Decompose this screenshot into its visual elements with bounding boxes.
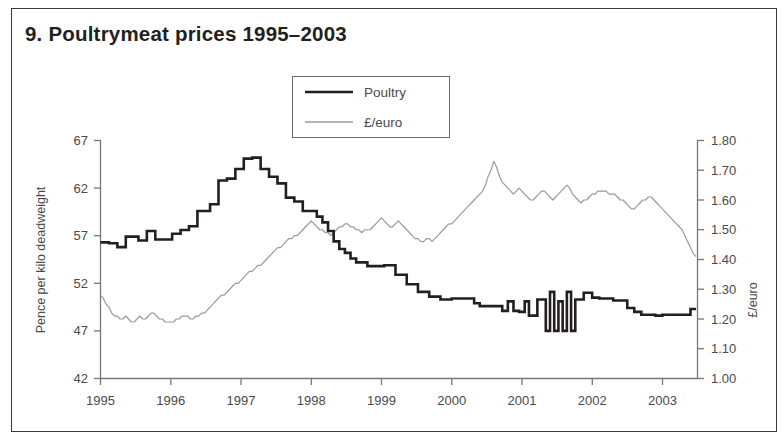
figure-panel: 9. Poultrymeat prices 1995–2003 67 62 57…: [0, 0, 784, 439]
right-tick-label: 1.60: [711, 193, 736, 208]
axis-lines: [101, 140, 698, 379]
right-tick-label: 1.80: [711, 133, 736, 148]
x-tick-label: 2002: [578, 393, 607, 408]
x-tick-label: 1999: [367, 393, 396, 408]
left-axis-ticks: [94, 141, 101, 379]
chart-plot: 67 62 57 52 47 42 Pence per kilo deadwei…: [0, 0, 784, 439]
left-axis-title: Pence per kilo deadweight: [34, 186, 48, 333]
x-tick-label: 1997: [227, 393, 256, 408]
x-tick-label: 1996: [156, 393, 185, 408]
right-axis-ticklabels: 1.80 1.70 1.60 1.50 1.40 1.30 1.20 1.10 …: [711, 133, 736, 386]
right-axis-ticks: [698, 141, 705, 379]
right-tick-label: 1.30: [711, 282, 736, 297]
x-tick-label: 2000: [437, 393, 466, 408]
left-tick-label: 57: [74, 228, 88, 243]
left-axis-ticklabels: 67 62 57 52 47 42: [74, 133, 88, 386]
left-tick-label: 42: [74, 371, 88, 386]
x-tick-label: 1998: [297, 393, 326, 408]
legend-label-poultry: Poultry: [364, 85, 406, 100]
x-tick-label: 2003: [648, 393, 677, 408]
right-tick-label: 1.10: [711, 341, 736, 356]
right-tick-label: 1.50: [711, 222, 736, 237]
right-tick-label: 1.40: [711, 252, 736, 267]
right-tick-label: 1.00: [711, 371, 736, 386]
series-line-poultry: [101, 158, 697, 331]
x-tick-label: 2001: [508, 393, 537, 408]
left-tick-label: 47: [74, 323, 88, 338]
left-tick-label: 52: [74, 276, 88, 291]
right-tick-label: 1.20: [711, 312, 736, 327]
legend-entry-euro[interactable]: £/euro: [305, 115, 402, 130]
bottom-axis-ticks: [101, 379, 663, 386]
left-tick-label: 62: [74, 181, 88, 196]
legend-entry-poultry[interactable]: Poultry: [305, 85, 406, 100]
x-tick-label: 1995: [86, 393, 115, 408]
left-tick-label: 67: [74, 133, 88, 148]
bottom-axis-ticklabels: 1995 1996 1997 1998 1999 2000 2001 2002 …: [86, 393, 677, 408]
right-tick-label: 1.70: [711, 163, 736, 178]
right-axis-title: £/euro: [746, 282, 760, 317]
legend-label-euro: £/euro: [364, 115, 402, 130]
